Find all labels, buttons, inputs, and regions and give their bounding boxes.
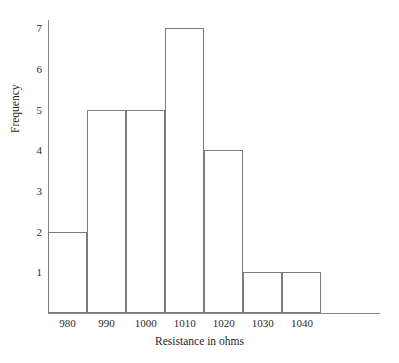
x-axis-tick-label: 1020 bbox=[213, 317, 235, 330]
histogram-bar bbox=[282, 272, 321, 313]
x-axis-tick-labels: 98099010001010102010301040 bbox=[48, 317, 380, 333]
histogram-bar bbox=[126, 110, 165, 313]
y-axis-tick-label: 7 bbox=[26, 23, 42, 34]
histogram-chart: 1234567 98099010001010102010301040 Frequ… bbox=[0, 0, 399, 363]
x-axis-tick-label: 1000 bbox=[135, 317, 157, 330]
x-axis-line bbox=[48, 313, 380, 314]
y-axis-title: Frequency bbox=[9, 84, 22, 133]
histogram-bar bbox=[87, 110, 126, 313]
y-axis-tick-label: 1 bbox=[26, 267, 42, 278]
y-axis-tick-label: 3 bbox=[26, 185, 42, 196]
histogram-bar bbox=[165, 28, 204, 313]
x-axis-title: Resistance in ohms bbox=[0, 334, 399, 348]
y-axis-tick-label: 2 bbox=[26, 226, 42, 237]
x-axis-tick-label: 1030 bbox=[252, 317, 274, 330]
histogram-bar bbox=[243, 272, 282, 313]
x-axis-tick-label: 990 bbox=[98, 317, 115, 330]
x-axis-tick-label: 1010 bbox=[174, 317, 196, 330]
x-axis-tick-label: 1040 bbox=[291, 317, 313, 330]
y-axis-tick-label: 6 bbox=[26, 63, 42, 74]
bars-container bbox=[48, 20, 380, 313]
y-axis-tick-label: 5 bbox=[26, 104, 42, 115]
histogram-bar bbox=[48, 232, 87, 313]
histogram-bar bbox=[204, 150, 243, 313]
y-axis-tick-label: 4 bbox=[26, 145, 42, 156]
y-axis-tick-labels: 1234567 bbox=[0, 0, 44, 363]
x-axis-tick-label: 980 bbox=[59, 317, 76, 330]
